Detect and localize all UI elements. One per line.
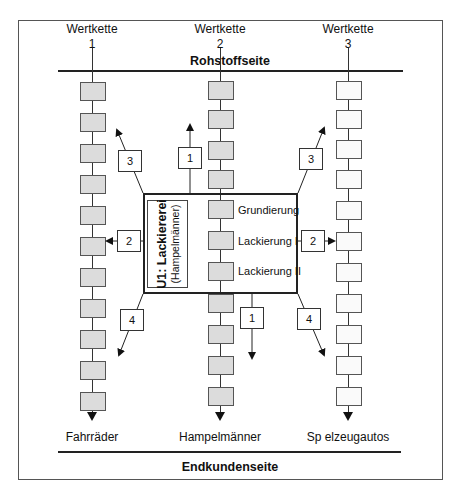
relation-label-4-left: 4 <box>120 309 144 331</box>
unit-step-lackierung-1: Lackierung I <box>238 235 298 247</box>
end-customer-side-line <box>58 451 401 453</box>
unit-step-grundierung: Grundierung <box>238 204 299 216</box>
relation-label-3-right: 3 <box>299 148 323 170</box>
unit-u1-label-box: U1: Lackiererei (Hampelmänner) <box>147 200 188 288</box>
relation-label-4-right: 4 <box>297 308 321 330</box>
chain-1-product: Fahrräder <box>52 430 132 444</box>
relation-label-2-left: 2 <box>117 230 141 252</box>
relation-label-2-right: 2 <box>301 230 325 252</box>
relation-label-1-top: 1 <box>178 147 202 169</box>
chain-3-product: Sp elzeugautos <box>298 430 398 444</box>
unit-u1-title: U1: Lackiererei <box>155 199 169 289</box>
end-customer-side-label: Endkundenseite <box>170 460 290 474</box>
unit-u1-subtitle: (Hampelmänner) <box>169 199 181 289</box>
relation-label-1-bottom: 1 <box>240 307 264 329</box>
unit-step-lackierung-2: Lackierung II <box>238 265 301 277</box>
relation-label-3-left: 3 <box>118 150 142 172</box>
chain-2-product: Hampelmänner <box>175 430 265 444</box>
